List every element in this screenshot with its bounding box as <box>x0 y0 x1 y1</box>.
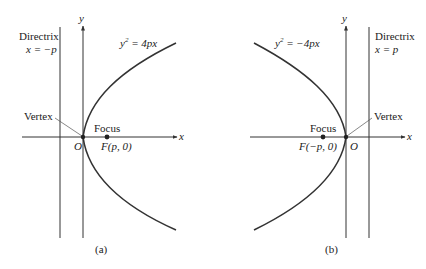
directrix-label: Directrix <box>19 30 59 42</box>
directrix-equation: x = −p <box>25 43 57 55</box>
directrix-equation: x = p <box>374 43 399 55</box>
y-axis-label: y <box>341 12 347 24</box>
focus-label: Focus <box>94 122 120 134</box>
caption-b: (b) <box>325 243 338 256</box>
origin-label: O <box>350 140 358 152</box>
vertex-point <box>81 135 85 139</box>
focus-point <box>105 135 110 140</box>
focus-coordinate: F(p, 0) <box>100 140 132 153</box>
caption-a: (a) <box>95 243 108 256</box>
focus-coordinate: F(−p, 0) <box>298 140 337 153</box>
panel-b: y x Directrix x = p y2 = −4px Vertex Foc… <box>250 12 415 256</box>
x-axis-label: x <box>406 130 412 142</box>
x-axis-label: x <box>178 130 184 142</box>
equation: y2 = 4px <box>119 36 157 49</box>
focus-label: Focus <box>310 122 336 134</box>
vertex-pointer <box>55 118 82 136</box>
focus-point <box>321 135 326 140</box>
directrix-label: Directrix <box>375 30 415 42</box>
vertex-label: Vertex <box>24 110 53 122</box>
vertex-pointer <box>347 118 372 136</box>
parabola-figure: y x Directrix x = −p y2 = 4px Vertex Foc… <box>0 0 426 269</box>
panel-a: y x Directrix x = −p y2 = 4px Vertex Foc… <box>19 12 184 256</box>
equation: y2 = −4px <box>274 36 320 49</box>
y-axis-label: y <box>78 12 84 24</box>
vertex-point <box>344 135 348 139</box>
vertex-label: Vertex <box>374 110 403 122</box>
origin-label: O <box>74 140 82 152</box>
